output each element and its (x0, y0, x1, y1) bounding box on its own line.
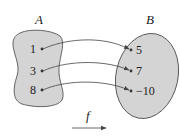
set-b-label: B (146, 12, 154, 27)
domain-dot-3 (41, 70, 44, 73)
set-b-region (108, 27, 180, 124)
codomain-element-7: 7 (136, 64, 142, 78)
domain-dot-1 (41, 48, 44, 51)
codomain-element-neg10: −10 (136, 84, 155, 98)
codomain-dot-5 (130, 49, 133, 52)
function-label: f (86, 108, 92, 123)
codomain-dot-neg10 (130, 90, 133, 93)
function-diagram: A B 1 3 8 5 7 −10 f (0, 0, 180, 138)
codomain-dot-7 (130, 70, 133, 73)
domain-dot-8 (41, 89, 44, 92)
domain-element-1: 1 (30, 42, 36, 56)
domain-element-8: 8 (30, 83, 36, 97)
codomain-element-5: 5 (136, 43, 142, 57)
set-a-label: A (34, 12, 43, 27)
set-a-region (13, 30, 63, 106)
domain-element-3: 3 (30, 64, 36, 78)
